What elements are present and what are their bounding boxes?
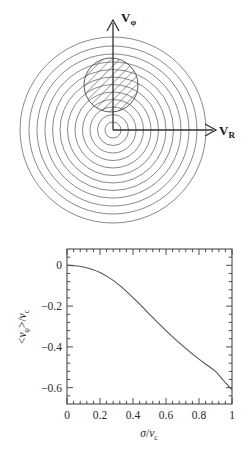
velocity-ellipsoid-diagram: Vφ VR [0, 0, 250, 230]
y-tick-label: 0 [56, 259, 62, 271]
diagram-canvas: Vφ VR [0, 0, 250, 230]
y-tick-label: −0.2 [41, 300, 62, 312]
x-tick-label: 0.4 [126, 409, 141, 421]
y-tick-labels: 0−0.2−0.4−0.6 [41, 259, 62, 393]
y-tick-label: −0.6 [41, 382, 62, 394]
x-tick-label: 0.2 [93, 409, 108, 421]
y-axis-title: <vφ>/vc [16, 309, 31, 344]
axis-ticks [67, 249, 232, 404]
plot-frame [67, 249, 232, 404]
plot-canvas: 00.20.40.60.81 0−0.2−0.4−0.6 σ/vc <vφ>/v… [0, 230, 250, 462]
x-tick-labels: 00.20.40.60.81 [64, 409, 235, 421]
x-tick-label: 1 [229, 409, 235, 421]
x-tick-label: 0.8 [192, 409, 207, 421]
x-tick-label: 0 [64, 409, 70, 421]
v-r-axis-label: VR [219, 123, 235, 140]
x-axis-title: σ/vc [140, 427, 158, 442]
v-phi-axis-label: Vφ [121, 10, 136, 27]
x-tick-label: 0.6 [159, 409, 174, 421]
y-tick-label: −0.4 [41, 341, 62, 353]
mean-rotation-plot: 00.20.40.60.81 0−0.2−0.4−0.6 σ/vc <vφ>/v… [0, 230, 250, 462]
hatched-dispersion-region [84, 58, 138, 112]
figure-container: Vφ VR 00.20.40.60.81 0−0.2−0.4−0.6 σ/vc … [0, 0, 250, 462]
data-series-line [67, 265, 232, 390]
